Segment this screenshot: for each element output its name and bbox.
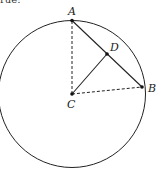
point-A — [70, 19, 74, 23]
point-C — [70, 92, 74, 96]
label-D: D — [109, 41, 119, 54]
segment-CD — [72, 54, 107, 94]
point-D — [105, 52, 109, 56]
label-C: C — [67, 98, 76, 111]
label-A: A — [67, 5, 76, 18]
point-B — [140, 85, 144, 89]
segment-CB — [72, 87, 142, 94]
label-B: B — [147, 82, 156, 95]
circle-geometry-diagram: A B C D — [0, 0, 162, 172]
